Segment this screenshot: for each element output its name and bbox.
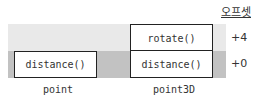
offset-4-label: +4 [231, 31, 247, 44]
point-label: point [43, 84, 73, 95]
offset-header: 오프셋 [221, 3, 251, 19]
point-distance-slot: distance() [14, 51, 97, 78]
point3d-distance-slot: distance() [130, 50, 213, 78]
point3d-label: point3D [153, 84, 195, 95]
offset-0-label: +0 [231, 57, 247, 70]
point3d-rotate-slot: rotate() [130, 24, 213, 52]
